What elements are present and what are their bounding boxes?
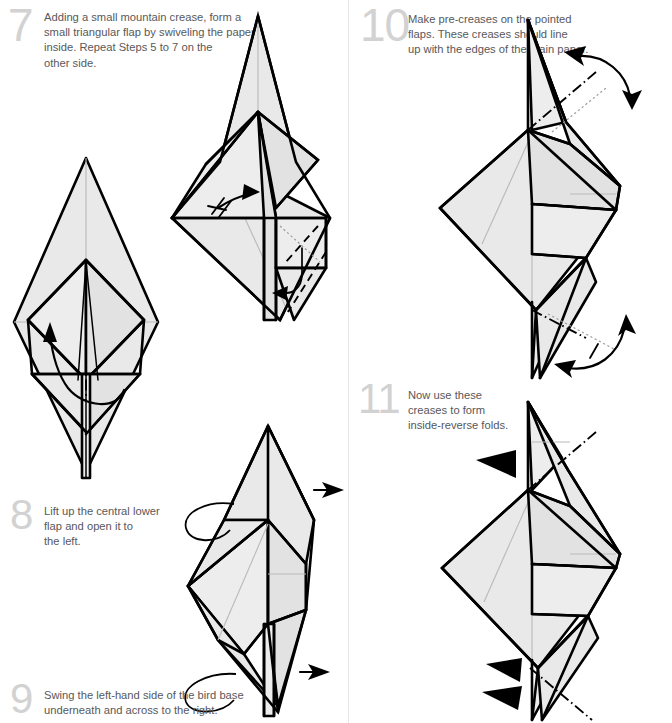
- origami-instruction-page: 7 Adding a small mountain crease, form a…: [0, 0, 672, 723]
- figure-bird-base-with-mountain-crease: [6, 152, 171, 482]
- figure-pre-crease-pointed-flaps: [420, 14, 672, 384]
- step-11-number: 11: [358, 378, 400, 420]
- step-9-text: Swing the left-hand side of the bird bas…: [44, 688, 304, 718]
- figure-inside-reverse-folds: [420, 402, 672, 723]
- step-10-number: 10: [360, 2, 409, 48]
- step-7-number: 7: [8, 2, 33, 48]
- step-9-number: 9: [10, 678, 32, 720]
- figure-lift-central-flap: [178, 424, 348, 720]
- column-divider: [348, 0, 349, 723]
- step-8-number: 8: [10, 494, 32, 536]
- figure-swiveled-flap-result: [168, 12, 348, 332]
